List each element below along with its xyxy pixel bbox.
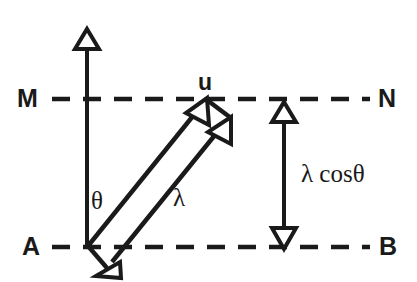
label-point-m: M — [17, 86, 38, 111]
label-vector-u: u — [198, 71, 212, 94]
label-lambda-cos-theta: λ cosθ — [301, 161, 365, 186]
separation-arrowhead-up-icon — [272, 102, 296, 122]
label-angle-theta: θ — [91, 188, 103, 213]
label-lambda: λ — [173, 185, 185, 210]
ray-tip-connector-line — [207, 100, 231, 118]
label-point-n: N — [378, 86, 396, 111]
diagram-vector-graphic — [0, 0, 417, 282]
label-point-b: B — [379, 234, 397, 259]
outgoing-ray-line — [88, 246, 107, 268]
normal-axis-arrowhead-icon — [75, 29, 99, 49]
label-point-a: A — [22, 234, 40, 259]
diagram-canvas: M N A B u θ λ λ cosθ — [0, 0, 417, 282]
outgoing-ray-arrowhead-icon — [96, 262, 121, 278]
